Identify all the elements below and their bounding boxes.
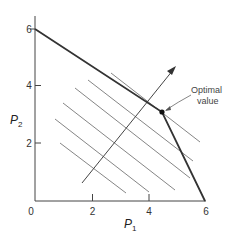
x-axis-label: P1 — [124, 217, 137, 233]
annotation-text: value — [197, 96, 219, 106]
x-tick-label: 0 — [28, 206, 34, 217]
annotation-text: Optimal — [191, 85, 222, 95]
x-tick-label: 2 — [90, 206, 96, 217]
y-tick-label: 4 — [26, 80, 32, 91]
iso-lines — [55, 73, 200, 193]
objective-arrow — [82, 70, 173, 183]
y-tick-label: 6 — [26, 24, 32, 35]
lp-chart: 0 2 4 6 2 4 6 P1 P2 Optimal value — [0, 0, 236, 234]
arrowhead-icon — [167, 66, 176, 75]
x-tick-label: 4 — [146, 206, 152, 217]
annotation-arrowhead-icon — [165, 106, 171, 111]
x-tick-label: 6 — [203, 206, 209, 217]
optimal-point — [159, 109, 164, 114]
y-tick-label: 2 — [26, 138, 32, 149]
y-axis-label: P2 — [10, 113, 23, 129]
feasible-boundary — [35, 29, 205, 201]
